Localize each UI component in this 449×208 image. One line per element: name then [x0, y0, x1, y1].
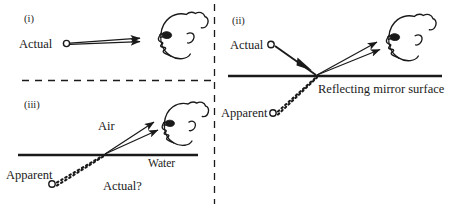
double-ray-arrow-icon: [317, 42, 377, 75]
arrow-icon: [275, 46, 316, 75]
label-actual-i: Actual: [19, 38, 52, 51]
head-profile-icon: [162, 102, 208, 145]
label-actual-iii: Actual?: [103, 180, 142, 193]
label-apparent-ii: Apparent: [221, 107, 268, 120]
dotted-ray-icon: [57, 156, 104, 186]
open-circle-icon: [268, 41, 274, 47]
open-circle-icon: [270, 110, 276, 116]
panel-i-rays: [63, 38, 140, 46]
panel-tag-iii: (iii): [24, 100, 40, 111]
panel-tag-ii: (ii): [232, 16, 245, 27]
panel-ii-rays: [228, 41, 442, 116]
panel-tag-i: (i): [24, 14, 34, 25]
double-ray-arrow-icon: [105, 130, 158, 154]
label-actual-ii: Actual: [230, 39, 263, 52]
double-ray-arrow-icon: [317, 50, 380, 76]
label-water: Water: [148, 158, 175, 170]
optics-ray-diagram-figure: (i) Actual (ii) Actual Apparent Reflecti…: [0, 0, 449, 208]
label-apparent-iii: Apparent: [6, 169, 53, 182]
head-profile-icon: [386, 14, 436, 60]
diagram-canvas: [0, 0, 449, 208]
head-profile-icon: [158, 12, 208, 58]
label-reflecting-mirror-surface: Reflecting mirror surface: [318, 83, 444, 96]
dotted-ray-icon: [278, 77, 317, 112]
label-air: Air: [98, 120, 115, 133]
open-circle-icon: [63, 40, 69, 46]
dotted-ray-icon: [278, 78, 317, 115]
